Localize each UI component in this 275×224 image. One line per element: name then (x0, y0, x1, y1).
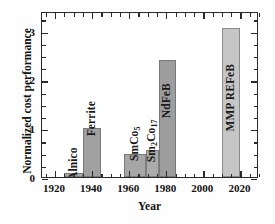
x-tick-top (250, 13, 251, 17)
bar-label: SmCo5 (129, 127, 141, 162)
x-tick-top (176, 13, 177, 17)
x-tick-top (222, 13, 223, 17)
y-tick-right (254, 69, 258, 70)
y-tick (42, 57, 46, 58)
x-tick (64, 174, 65, 178)
x-tick (101, 174, 102, 178)
bar-ndfeb: NdFeB (159, 60, 176, 177)
x-tick (250, 174, 251, 178)
x-tick (92, 171, 93, 177)
y-tick-right (254, 118, 258, 119)
x-tick (203, 171, 204, 177)
x-tick (231, 174, 232, 178)
x-tick-top (240, 13, 241, 19)
bar-mmp-refeb: MMP REFeB (222, 28, 241, 177)
y-tick (42, 33, 48, 34)
x-tick-top (120, 13, 121, 17)
x-tick-top (259, 13, 260, 17)
bar-fill (159, 60, 176, 177)
x-tick-top (46, 13, 47, 17)
y-tick-right (251, 130, 257, 131)
x-tick-label: 1980 (154, 182, 176, 194)
bar-label: Sm2Co17 (147, 119, 159, 162)
x-tick (74, 174, 75, 178)
x-tick-top (166, 13, 167, 19)
x-tick-label: 2000 (191, 182, 213, 194)
x-tick (120, 174, 121, 178)
y-tick (42, 130, 48, 131)
x-tick (176, 174, 177, 178)
y-tick (42, 142, 46, 143)
bar-label: Ferrite (86, 101, 98, 136)
x-axis-title: Year (41, 200, 258, 212)
figure: AlnicoFerriteSmCo5Sm2Co17NdFeBMMP REFeB … (0, 0, 275, 224)
x-tick (240, 171, 241, 177)
bar-label: MMP REFeB (225, 64, 237, 132)
y-tick-right (254, 57, 258, 58)
x-tick-label: 2020 (228, 182, 250, 194)
x-tick (194, 174, 195, 178)
x-tick-top (92, 13, 93, 19)
x-tick-top (194, 13, 195, 17)
y-tick (42, 167, 46, 168)
x-tick (213, 174, 214, 178)
y-tick (42, 106, 46, 107)
x-tick (83, 174, 84, 178)
x-tick-top (231, 13, 232, 17)
x-tick-top (203, 13, 204, 19)
y-tick-right (254, 106, 258, 107)
x-tick-top (129, 13, 130, 19)
y-axis-title: Normalized cost performance (21, 16, 33, 186)
y-tick-right (254, 94, 258, 95)
x-tick-top (148, 13, 149, 17)
x-tick (185, 174, 186, 178)
x-tick-top (213, 13, 214, 17)
y-tick (42, 179, 48, 180)
x-tick (55, 171, 56, 177)
bar-smco5: SmCo5 (124, 154, 146, 177)
x-tick-label: 1960 (117, 182, 139, 194)
y-tick-right (254, 142, 258, 143)
x-tick-top (64, 13, 65, 17)
bar-label: Alnico (68, 147, 80, 177)
y-tick-right (251, 33, 257, 34)
bar-label: NdFeB (161, 84, 173, 119)
x-tick-top (185, 13, 186, 17)
y-tick (42, 81, 48, 82)
y-tick (42, 45, 46, 46)
x-tick-top (138, 13, 139, 17)
x-tick (157, 174, 158, 178)
x-tick-top (157, 13, 158, 17)
y-tick (42, 69, 46, 70)
y-tick-right (254, 20, 258, 21)
y-tick-right (251, 81, 257, 82)
x-tick-label: 1940 (80, 182, 102, 194)
x-tick (148, 174, 149, 178)
y-tick-right (254, 155, 258, 156)
y-tick-right (254, 45, 258, 46)
y-tick-right (251, 179, 257, 180)
bar-ferrite: Ferrite (83, 128, 102, 177)
y-tick (42, 155, 46, 156)
bars-layer: AlnicoFerriteSmCo5Sm2Co17NdFeBMMP REFeB (42, 13, 257, 177)
x-tick-top (83, 13, 84, 17)
y-tick (42, 94, 46, 95)
x-tick-label: 1920 (43, 182, 65, 194)
x-tick-top (74, 13, 75, 17)
x-tick-top (111, 13, 112, 17)
x-tick (129, 171, 130, 177)
x-tick (138, 174, 139, 178)
y-tick-right (254, 167, 258, 168)
y-tick (42, 118, 46, 119)
y-tick (42, 20, 46, 21)
x-tick (111, 174, 112, 178)
x-tick (222, 174, 223, 178)
plot-area: AlnicoFerriteSmCo5Sm2Co17NdFeBMMP REFeB (41, 12, 258, 178)
x-tick (259, 174, 260, 178)
x-tick (166, 171, 167, 177)
x-tick (46, 174, 47, 178)
x-tick-top (55, 13, 56, 19)
x-tick-top (101, 13, 102, 17)
